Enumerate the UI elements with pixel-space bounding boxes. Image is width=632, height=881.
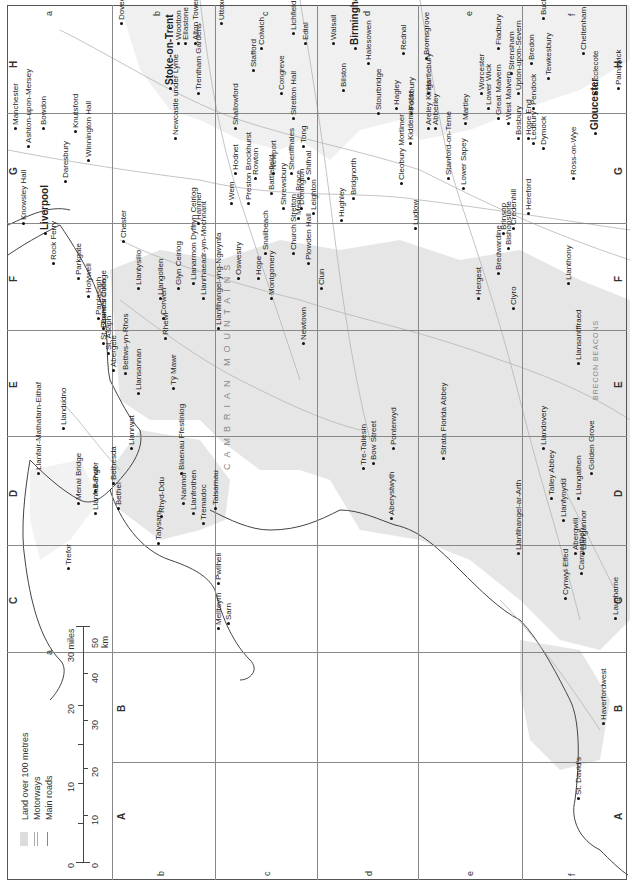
place-name: Llanarmon Dyffryn Ceiriog [189, 187, 198, 280]
town-dot-icon [164, 337, 167, 340]
place-name: Ponterwyd [389, 407, 398, 445]
place-name: Kidderminster [406, 91, 415, 140]
place-name: Birmingham [349, 0, 360, 45]
place-name: Rednal [399, 25, 408, 50]
town-dot-icon [182, 502, 185, 505]
place-name: Aberystwyth [387, 471, 396, 515]
place-label: Stanford-on-Teme [445, 111, 453, 180]
town-dot-icon [512, 307, 515, 310]
place-name: Fladbury [494, 14, 503, 45]
place-name: Bowdon [39, 96, 48, 125]
town-dot-icon [442, 457, 445, 460]
town-dot-icon [572, 177, 575, 180]
place-label: Tremadoc [200, 484, 208, 525]
town-dot-icon [497, 272, 500, 275]
town-dot-icon [517, 552, 520, 555]
place-name: Corwen [159, 287, 168, 315]
town-dot-icon [352, 197, 355, 200]
grid-line-horizontal [7, 545, 627, 546]
town-dot-icon [342, 89, 345, 92]
place-name: Battlefield [267, 155, 276, 190]
place-label: Cynwyl Elfed [562, 549, 570, 600]
town-dot-icon [414, 227, 417, 230]
place-label: Nanmor [180, 472, 188, 505]
place-label: Llanfihangel-yng-Ngwynfa [215, 233, 223, 331]
town-dot-icon [172, 387, 175, 390]
town-dot-icon [320, 287, 323, 290]
place-name: Bilston [339, 63, 348, 87]
place-label: Newtown [300, 307, 308, 345]
place-label: Dymock [540, 116, 548, 150]
town-dot-icon [547, 77, 550, 80]
place-label: Ludlow [412, 200, 420, 230]
town-dot-icon [530, 62, 533, 65]
town-dot-icon [157, 542, 160, 545]
town-dot-icon [67, 567, 70, 570]
town-dot-icon [87, 295, 90, 298]
town-dot-icon [594, 132, 597, 135]
town-dot-icon [400, 182, 403, 185]
scale-tick [78, 744, 83, 745]
place-name: Knowsley Hall [19, 170, 28, 220]
place-label: Edial [302, 22, 310, 45]
place-label: Corwen [160, 287, 168, 320]
place-name: Llanrwst [127, 415, 136, 445]
place-label: Holywell [85, 263, 93, 298]
place-name: Llansantffraed [574, 309, 583, 360]
scale-miles-0: 0 [66, 863, 76, 868]
place-name: Stanford-on-Teme [444, 111, 453, 175]
place-name: Menai Bridge [74, 453, 83, 500]
place-name: Trefor [64, 544, 73, 565]
town-dot-icon [214, 507, 217, 510]
place-label: Rock Ferry [50, 221, 58, 265]
place-name: Snailbeach [261, 210, 270, 250]
place-name: Strensham [507, 31, 516, 70]
place-name: Bromsgrove [422, 12, 431, 55]
place-name: Glyn Ceiriog [174, 241, 183, 285]
place-label: Rowton [252, 148, 260, 180]
place-name: Llandudno [59, 388, 68, 425]
motorway-swatch [34, 832, 38, 846]
place-name: Winnington Hall [84, 101, 93, 157]
place-label: Bettws-yn-Rhos [122, 314, 130, 375]
town-dot-icon [582, 52, 585, 55]
town-dot-icon [44, 232, 47, 235]
town-dot-icon [340, 219, 343, 222]
place-name: Sheriffhales [287, 128, 296, 170]
town-dot-icon [617, 87, 620, 90]
place-label: Battlefield [268, 155, 276, 195]
land-over-100m-swatch [20, 832, 28, 846]
grid-row-d-top: d [362, 11, 372, 16]
scale-tick [78, 783, 83, 784]
place-label: Talsarnau [212, 470, 220, 510]
place-label: Bethel [115, 482, 123, 510]
place-label: Glyn Ceiriog [175, 241, 183, 290]
grid-line-vertical [317, 5, 318, 880]
scale-miles-10: 10 [66, 782, 76, 792]
place-name: Clun [317, 269, 326, 285]
town-dot-icon [117, 507, 120, 510]
place-label: Llansannan [135, 349, 143, 395]
place-name: Hergest [474, 267, 483, 295]
scale-miles-20: 20 [66, 704, 76, 714]
place-name: Bishopstone [504, 201, 513, 245]
place-name: Pwllheli [214, 553, 223, 580]
town-dot-icon [137, 392, 140, 395]
town-dot-icon [234, 172, 237, 175]
place-name: Strata Florida Abbey [439, 383, 448, 455]
town-dot-icon [292, 32, 295, 35]
grid-row-a-top: a [44, 11, 54, 16]
place-name: Uttoxeter [217, 0, 226, 20]
grid-row-f-bottom: f [567, 873, 577, 876]
place-label: Buckland [540, 0, 548, 20]
town-dot-icon [409, 142, 412, 145]
town-dot-icon [230, 202, 233, 205]
place-name: Bow Street [369, 421, 378, 460]
town-dot-icon [202, 522, 205, 525]
town-dot-icon [392, 447, 395, 450]
scale-tick [78, 823, 83, 824]
place-label: Talley Abbey [548, 450, 556, 500]
place-name: Ashton-upon-Mersey [24, 69, 33, 143]
place-label: Stourbridge [375, 69, 383, 115]
town-dot-icon [137, 287, 140, 290]
